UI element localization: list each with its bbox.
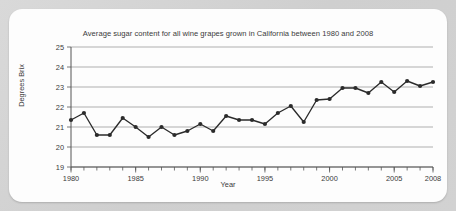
data-series <box>71 81 433 137</box>
svg-text:23: 23 <box>56 83 64 92</box>
line-chart-svg: 25242322212019 1980198519901995200020052… <box>9 9 447 202</box>
plot-area: Degrees Brix Year 25242322212019 1980198… <box>9 9 447 202</box>
y-axis-label: Degrees Brix <box>17 46 26 126</box>
svg-text:24: 24 <box>56 63 64 72</box>
svg-text:25: 25 <box>56 43 64 52</box>
y-axis-ticks: 25242322212019 <box>56 43 71 172</box>
svg-text:19: 19 <box>56 163 64 172</box>
gridlines <box>71 47 433 167</box>
svg-text:21: 21 <box>56 123 64 132</box>
svg-text:22: 22 <box>56 103 64 112</box>
chart-card: Average sugar content for all wine grape… <box>9 9 447 202</box>
data-markers <box>69 79 435 139</box>
svg-text:20: 20 <box>56 143 64 152</box>
x-axis-label: Year <box>9 180 447 189</box>
